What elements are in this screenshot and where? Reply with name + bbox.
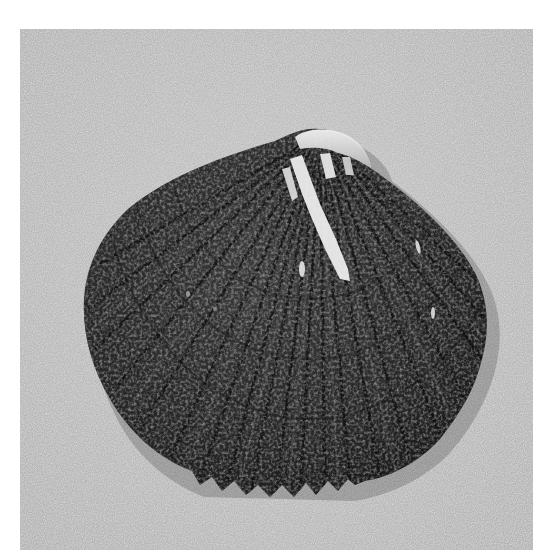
image-canvas: Photograph of a dark, heavily ribbed coc…: [0, 0, 547, 555]
shell-illustration: [20, 29, 533, 550]
shell-photo: [20, 29, 533, 550]
